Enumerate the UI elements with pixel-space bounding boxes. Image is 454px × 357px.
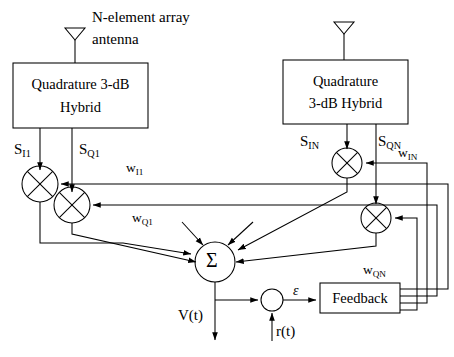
label-epsilon: ε bbox=[293, 283, 299, 299]
label-w-i1-base: w bbox=[126, 160, 136, 175]
antenna-array-block-diagram: Quadrature 3-dB Hybrid Quadrature 3-dB H… bbox=[0, 0, 454, 357]
label-s-in: SIN bbox=[300, 133, 319, 150]
label-r-input: r(t) bbox=[276, 323, 295, 340]
summer-sigma: Σ bbox=[206, 250, 218, 270]
label-s-q1-sub: Q1 bbox=[87, 148, 99, 159]
diagram-wiring bbox=[0, 0, 454, 357]
label-s-i1: SI1 bbox=[14, 141, 31, 158]
hybrid-box-right bbox=[283, 60, 408, 124]
antenna-icon-left bbox=[65, 28, 85, 40]
label-w-q1-sub: Q1 bbox=[142, 217, 153, 227]
wire-summer-feed-b bbox=[228, 222, 253, 245]
label-w-in-base: w bbox=[398, 145, 408, 160]
wire-summer-feed-a bbox=[182, 222, 203, 245]
label-w-i1-sub: I1 bbox=[136, 167, 144, 177]
wire-w-i1 bbox=[61, 184, 448, 289]
label-v-output: V(t) bbox=[178, 307, 203, 324]
label-w-q1-base: w bbox=[132, 210, 142, 225]
hybrid-box-left bbox=[13, 63, 148, 128]
wire-mixer-qn-to-summer bbox=[236, 233, 376, 262]
label-w-i1: wI1 bbox=[126, 160, 143, 176]
label-w-qn: wQN bbox=[363, 262, 386, 278]
array-annotation-line1: N-element array bbox=[92, 9, 190, 26]
wire-mixer-i1-to-summer bbox=[40, 202, 191, 254]
label-s-in-sub: IN bbox=[308, 140, 319, 151]
label-w-in-sub: IN bbox=[408, 152, 418, 162]
wire-mixer-in-to-summer bbox=[238, 178, 347, 250]
label-w-q1: wQ1 bbox=[132, 210, 153, 226]
feedback-box bbox=[320, 283, 400, 313]
label-w-qn-sub: QN bbox=[373, 269, 386, 279]
label-s-q1: SQ1 bbox=[79, 141, 100, 158]
array-annotation-line2: antenna bbox=[92, 31, 139, 48]
label-w-in: wIN bbox=[398, 145, 417, 161]
antenna-icon-right bbox=[334, 22, 354, 34]
label-w-qn-base: w bbox=[363, 262, 373, 277]
label-s-i1-sub: I1 bbox=[22, 148, 31, 159]
error-node bbox=[261, 289, 283, 311]
